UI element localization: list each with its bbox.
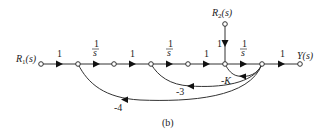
node-r2 bbox=[223, 22, 228, 27]
arrow-n2-n3 bbox=[93, 61, 100, 68]
arrow-n5-n6 bbox=[203, 61, 210, 68]
gain-n5-n6: 1 bbox=[204, 48, 209, 59]
arrow-n6-n7 bbox=[240, 61, 247, 68]
gain-n6-n7-den: s bbox=[241, 47, 245, 58]
node-3 bbox=[112, 62, 117, 67]
gain-n4-n5-den: s bbox=[167, 47, 171, 58]
gain-r2-n6: 1 bbox=[217, 38, 222, 49]
node-r1 bbox=[39, 62, 44, 67]
figure-caption: (b) bbox=[162, 117, 174, 129]
node-2 bbox=[76, 62, 81, 67]
gain-n2-n3-den: s bbox=[93, 47, 97, 58]
gain-feedback-k: -K bbox=[221, 75, 232, 86]
gain-feedback-4: -4 bbox=[114, 102, 122, 113]
arrow-n7-y bbox=[278, 61, 285, 68]
label-y: Y(s) bbox=[297, 50, 314, 62]
label-r1: R1(s) bbox=[15, 53, 37, 66]
node-5 bbox=[186, 62, 191, 67]
arrow-feedback-3 bbox=[187, 83, 194, 90]
branch-feedback-4 bbox=[78, 64, 262, 100]
arrow-r1-n2 bbox=[56, 61, 63, 68]
gain-r1-n2: 1 bbox=[57, 48, 62, 59]
arrow-n3-n4 bbox=[129, 61, 136, 68]
signal-flow-graph: R1(s) R2(s) Y(s) 1 1 s 1 1 s 1 1 1 s 1 -… bbox=[0, 0, 330, 137]
label-r2: R2(s) bbox=[211, 7, 233, 20]
gain-n7-y: 1 bbox=[280, 48, 285, 59]
gain-feedback-3: -3 bbox=[176, 86, 184, 97]
node-y bbox=[298, 62, 303, 67]
node-4 bbox=[149, 62, 154, 67]
node-6 bbox=[223, 62, 228, 67]
gain-n3-n4: 1 bbox=[130, 48, 135, 59]
arrow-n4-n5 bbox=[166, 61, 173, 68]
arrow-r2-n6 bbox=[222, 40, 229, 47]
arrow-feedback-k bbox=[239, 74, 246, 80]
node-7 bbox=[260, 62, 265, 67]
